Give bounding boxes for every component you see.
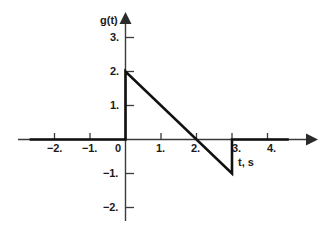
x-axis-arrow-icon (306, 134, 318, 146)
y-axis-title: g(t) (100, 14, 118, 26)
ytick-label-3: 3. (110, 31, 119, 43)
xtick-label-3: 3. (232, 142, 241, 154)
y-axis-arrow-icon (120, 12, 132, 24)
ytick-label-1: 1. (110, 99, 119, 111)
ytick-label-neg1: −1. (103, 167, 118, 179)
xtick-label-neg1: −1. (82, 142, 97, 154)
xtick-label-1: 1. (156, 142, 165, 154)
ytick-label-neg2: −2. (103, 201, 118, 213)
ytick-label-2: 2. (110, 65, 119, 77)
xtick-label-neg2: −2. (47, 142, 62, 154)
xtick-label-0: 0 (115, 142, 121, 154)
xtick-label-2: 2. (191, 142, 200, 154)
x-axis-title: t, s (238, 156, 254, 168)
figure-canvas: −2. −1. 0 1. 2. 3. 4. 3. 2. 1. −1. −2. g… (0, 0, 325, 241)
xtick-label-4: 4. (267, 142, 276, 154)
plot-area (0, 0, 325, 241)
